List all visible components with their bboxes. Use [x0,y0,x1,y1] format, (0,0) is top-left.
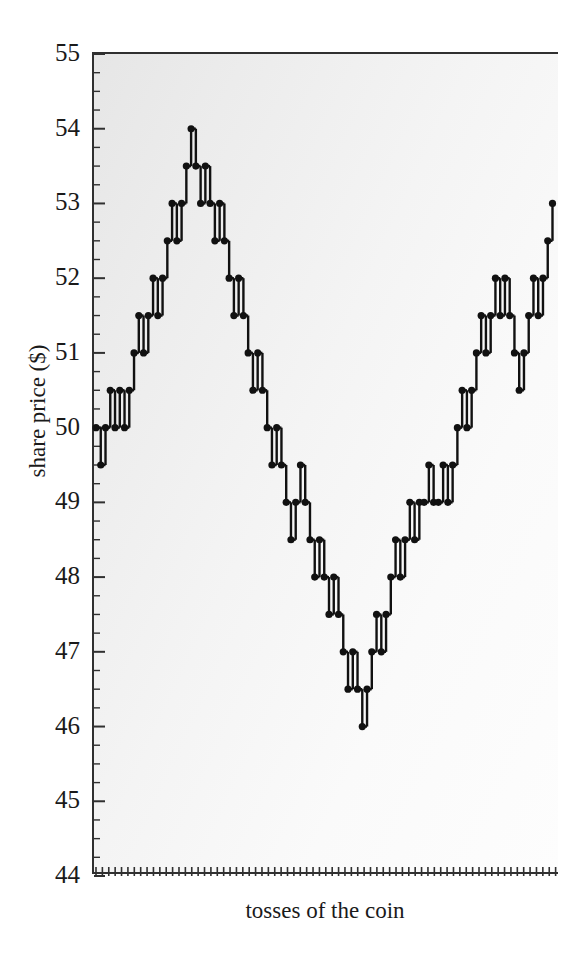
data-point-marker [463,424,470,431]
data-point-marker [130,349,137,356]
data-point-marker [173,237,180,244]
data-point-marker [273,424,280,431]
chart-figure: 555453525150494847464544 tosses of the c… [0,0,586,954]
data-point-marker [321,573,328,580]
plot-area [92,52,558,874]
data-point-marker [154,312,161,319]
data-point-marker [501,275,508,282]
data-point-marker [539,275,546,282]
data-point-marker [349,648,356,655]
data-point-marker [368,648,375,655]
y-tick-label-51: 51 [55,338,80,363]
data-point-marker [140,349,147,356]
y-tick-label-55: 55 [55,40,80,65]
data-point-marker [421,499,428,506]
data-point-marker [516,387,523,394]
y-tick-label-47: 47 [55,637,80,662]
data-point-marker [188,125,195,132]
data-point-marker [278,461,285,468]
data-point-marker [202,162,209,169]
data-point-marker [292,499,299,506]
data-point-marker [406,499,413,506]
data-point-marker [459,387,466,394]
data-point-marker [506,312,513,319]
data-point-marker [149,275,156,282]
y-tick-label-46: 46 [55,712,80,737]
data-point-marker [354,686,361,693]
data-point-marker [192,162,199,169]
data-point-marker [392,536,399,543]
data-point-marker [178,200,185,207]
data-point-marker [340,648,347,655]
data-point-marker [411,536,418,543]
data-point-marker [482,349,489,356]
data-point-marker [311,573,318,580]
data-point-marker [325,611,332,618]
y-tick-label-44: 44 [55,862,80,887]
y-tick-label-50: 50 [55,413,80,438]
data-point-marker [221,237,228,244]
data-point-marker [297,461,304,468]
data-point-marker [492,275,499,282]
data-point-marker [544,237,551,244]
data-point-marker [525,312,532,319]
data-point-marker [197,200,204,207]
data-point-marker [287,536,294,543]
y-tick-label-45: 45 [55,787,80,812]
data-point-marker [183,162,190,169]
data-point-marker [283,499,290,506]
data-point-marker [373,611,380,618]
data-point-marker [107,387,114,394]
data-point-marker [240,312,247,319]
data-point-marker [473,349,480,356]
data-point-marker [121,424,128,431]
data-point-marker [145,312,152,319]
data-point-marker [111,424,118,431]
data-point-marker [216,200,223,207]
x-axis-title: tosses of the coin [92,898,558,924]
data-point-marker [454,424,461,431]
data-point-marker [511,349,518,356]
data-point-marker [302,499,309,506]
data-point-marker [207,200,214,207]
data-point-marker [535,312,542,319]
data-point-marker [478,312,485,319]
data-point-marker [359,723,366,730]
data-point-marker [449,461,456,468]
data-point-marker [440,461,447,468]
data-point-marker [159,275,166,282]
data-series-random-walk [94,54,560,876]
data-point-marker [164,237,171,244]
data-point-marker [116,387,123,394]
data-point-marker [168,200,175,207]
data-point-marker [487,312,494,319]
data-point-marker [520,349,527,356]
data-point-marker [401,536,408,543]
data-point-marker [249,387,256,394]
y-axis-title: share price ($) [25,301,51,521]
data-point-marker [254,349,261,356]
y-tick-label-49: 49 [55,488,80,513]
data-point-marker [468,387,475,394]
data-point-marker [126,387,133,394]
data-point-marker [135,312,142,319]
data-point-marker [387,573,394,580]
data-point-marker [245,349,252,356]
y-tick-label-48: 48 [55,563,80,588]
data-point-marker [92,424,99,431]
y-tick-label-52: 52 [55,264,80,289]
data-point-marker [444,499,451,506]
data-point-marker [425,461,432,468]
data-point-marker [378,648,385,655]
data-point-marker [102,424,109,431]
data-point-marker [435,499,442,506]
data-point-marker [330,573,337,580]
data-point-marker [306,536,313,543]
y-tick-label-54: 54 [55,114,80,139]
data-point-marker [264,424,271,431]
data-point-marker [226,275,233,282]
data-point-marker [549,200,556,207]
data-point-marker [497,312,504,319]
data-point-marker [363,686,370,693]
data-point-marker [211,237,218,244]
